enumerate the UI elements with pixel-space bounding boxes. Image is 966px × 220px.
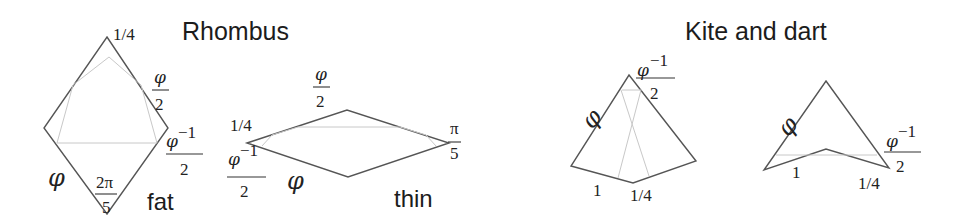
thin-inner-arc [262,127,436,146]
fat-angle-den: 5 [102,198,111,217]
dart-right-num: φ [886,131,898,151]
kite-dart-title: Kite and dart [685,17,827,45]
kite-inner-diag-2 [618,90,641,178]
fat-top-label: 1/4 [113,25,135,44]
thin-top-num: φ [315,64,327,84]
kite-top-num: φ [637,60,649,80]
kite-inner-diag-1 [621,90,649,176]
fat-right-den: 2 [180,160,189,179]
kite-top-den: 2 [650,84,659,103]
fat-label: fat [147,188,174,215]
dart-right-den: 2 [896,157,905,176]
fat-side-num: φ [154,67,166,87]
fat-right-exp: −1 [178,123,196,142]
kite-bottom-right: 1/4 [630,186,652,205]
dart-bottom-left: 1 [792,163,801,182]
thin-left-label: 1/4 [230,116,252,135]
thin-left-num: φ [228,149,240,169]
fat-edge-label: φ [48,164,65,192]
thin-rhombus-outline [247,110,449,177]
thin-angle-den: 5 [450,144,459,163]
thin-edge-label: φ [287,167,304,195]
fat-right-num: φ [166,131,178,151]
thin-left-den: 2 [240,182,249,201]
thin-rhombus [247,110,449,177]
dart-bottom-right: 1/4 [858,174,880,193]
rhombus-title: Rhombus [182,17,289,45]
fat-angle-num: 2π [96,173,114,192]
thin-top-den: 2 [316,92,325,111]
fat-side-den: 2 [155,95,164,114]
kite-edge-label: φ [576,103,608,134]
kite-top-exp: −1 [650,51,668,70]
fat-inner-arc [57,57,157,143]
thin-label: thin [394,185,433,212]
kite-bottom-left: 1 [593,181,602,200]
tiling-diagram: Rhombus Kite and dart 1/4 φ 2 φ −1 2 φ 2… [0,0,966,220]
dart-right-exp: −1 [898,122,916,141]
thin-angle-num: π [450,119,459,138]
thin-left-exp: −1 [240,141,258,160]
dart-edge-label: φ [771,111,803,142]
